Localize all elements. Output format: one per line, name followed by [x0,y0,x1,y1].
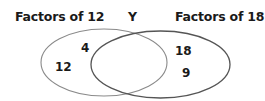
element-9: 9 [182,67,190,79]
universe-label: Y [128,11,137,24]
element-4: 4 [81,42,89,54]
set-title-factors-of-18: Factors of 18 [175,11,264,24]
element-18: 18 [175,45,192,57]
set-title-factors-of-12: Factors of 12 [15,11,104,24]
element-12: 12 [55,61,72,73]
set-ellipse-factors-of-18 [91,31,230,98]
venn-diagram: Factors of 12 Y Factors of 18 4 12 18 9 [0,0,265,101]
